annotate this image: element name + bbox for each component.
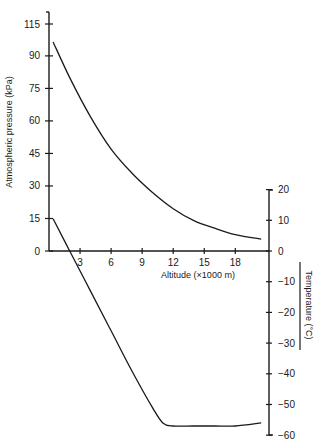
x-tick-label: 18 xyxy=(230,257,242,268)
right-tick-label: −50 xyxy=(278,399,295,410)
right-tick-label: −40 xyxy=(278,368,295,379)
axes xyxy=(46,12,273,435)
right-tick-label: 20 xyxy=(278,184,290,195)
right-tick-label: 10 xyxy=(278,215,290,226)
left-axis-title: Atmospheric pressure (kPa) xyxy=(4,76,14,188)
left-tick-label: 30 xyxy=(29,180,41,191)
x-tick-label: 15 xyxy=(199,257,211,268)
right-y-ticks: 20100−10−20−30−40−50−60 xyxy=(266,184,295,441)
right-tick-label: −10 xyxy=(278,276,295,287)
x-tick-label: 9 xyxy=(139,257,145,268)
chart: 0153045607590115 369121518 20100−10−20−3… xyxy=(0,0,318,442)
left-tick-label: 75 xyxy=(29,83,41,94)
right-tick-label: −30 xyxy=(278,338,295,349)
right-axis-title: Temperature (°C) xyxy=(304,270,314,339)
temperature-curve xyxy=(53,219,261,426)
left-tick-label: 15 xyxy=(29,213,41,224)
right-tick-label: 0 xyxy=(278,246,284,257)
left-tick-label: 0 xyxy=(34,246,40,257)
left-tick-label: 60 xyxy=(29,115,41,126)
right-tick-label: −60 xyxy=(278,430,295,441)
x-axis-title: Altitude (×1000 m) xyxy=(161,270,235,280)
pressure-curve xyxy=(53,42,261,239)
x-tick-label: 12 xyxy=(168,257,180,268)
x-tick-label: 6 xyxy=(108,257,114,268)
left-tick-label: 115 xyxy=(24,19,40,30)
left-tick-label: 45 xyxy=(29,148,41,159)
left-tick-label: 90 xyxy=(29,50,41,61)
right-tick-label: −20 xyxy=(278,307,295,318)
